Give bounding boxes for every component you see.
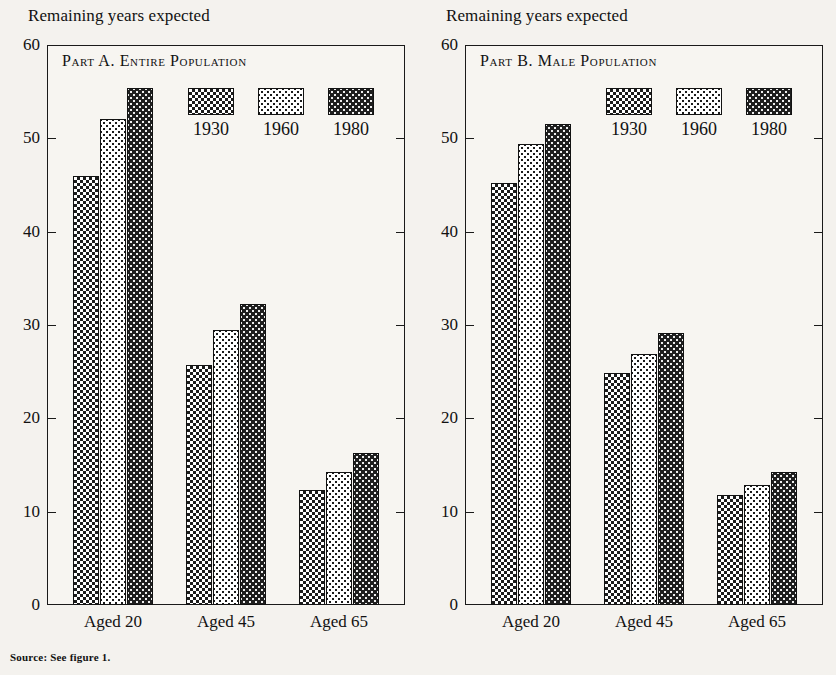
legend-swatch-b-1980 xyxy=(746,88,792,115)
bar-b-aged-20-1960 xyxy=(518,144,544,605)
y-tick-label-a-0: 0 xyxy=(4,596,40,613)
legend-label-a-1980: 1980 xyxy=(325,119,377,140)
chart-panel-part-a: Remaining years expected Part A. Entire … xyxy=(0,0,418,648)
figure-root: Remaining years expected Part A. Entire … xyxy=(0,0,836,675)
x-axis-label-b-aged-65: Aged 65 xyxy=(697,612,817,632)
y-tick-label-b-50: 50 xyxy=(422,129,458,146)
bar-a-aged-45-1960 xyxy=(213,330,239,605)
chart-panel-part-b: Remaining years expected Part B. Male Po… xyxy=(418,0,836,648)
y-tick-label-a-40: 40 xyxy=(4,223,40,240)
source-note: Source: See figure 1. xyxy=(10,651,110,663)
legend-label-b-1930: 1930 xyxy=(603,119,655,140)
y-axis-caption-b: Remaining years expected xyxy=(446,6,628,26)
legend-swatch-a-1930 xyxy=(188,88,234,115)
legend-label-a-1930: 1930 xyxy=(185,119,237,140)
legend-swatch-b-1930 xyxy=(606,88,652,115)
legend-a: 193019601980 xyxy=(185,88,395,146)
y-tick-label-a-50: 50 xyxy=(4,129,40,146)
legend-b: 193019601980 xyxy=(603,88,813,146)
legend-label-b-1960: 1960 xyxy=(673,119,725,140)
y-tick-label-b-10: 10 xyxy=(422,503,458,520)
bar-a-aged-65-1930 xyxy=(299,490,325,605)
x-axis-label-b-aged-20: Aged 20 xyxy=(471,612,591,632)
legend-label-a-1960: 1960 xyxy=(255,119,307,140)
y-axis-caption-a: Remaining years expected xyxy=(28,6,210,26)
legend-label-b-1980: 1980 xyxy=(743,119,795,140)
bar-b-aged-20-1980 xyxy=(545,124,571,605)
bar-b-aged-20-1930 xyxy=(491,183,517,605)
x-axis-label-b-aged-45: Aged 45 xyxy=(584,612,704,632)
bar-b-aged-65-1980 xyxy=(771,472,797,605)
bar-b-aged-65-1960 xyxy=(744,485,770,605)
bar-a-aged-45-1980 xyxy=(240,304,266,605)
bar-a-aged-20-1980 xyxy=(127,88,153,605)
x-axis-label-a-aged-65: Aged 65 xyxy=(279,612,399,632)
bar-b-aged-65-1930 xyxy=(717,495,743,605)
y-tick-label-b-40: 40 xyxy=(422,223,458,240)
legend-swatch-b-1960 xyxy=(676,88,722,115)
y-tick-label-a-30: 30 xyxy=(4,316,40,333)
x-axis-label-a-aged-20: Aged 20 xyxy=(53,612,173,632)
y-tick-label-b-0: 0 xyxy=(422,596,458,613)
bar-b-aged-45-1980 xyxy=(658,333,684,605)
y-tick-label-a-60: 60 xyxy=(4,36,40,53)
bar-a-aged-45-1930 xyxy=(186,365,212,605)
bar-a-aged-20-1960 xyxy=(100,119,126,605)
y-tick-label-b-60: 60 xyxy=(422,36,458,53)
bar-a-aged-65-1960 xyxy=(326,472,352,605)
y-tick-label-a-10: 10 xyxy=(4,503,40,520)
bar-b-aged-45-1930 xyxy=(604,373,630,605)
bar-a-aged-20-1930 xyxy=(73,176,99,605)
x-axis-label-a-aged-45: Aged 45 xyxy=(166,612,286,632)
legend-swatch-a-1960 xyxy=(258,88,304,115)
bar-a-aged-65-1980 xyxy=(353,453,379,605)
legend-swatch-a-1980 xyxy=(328,88,374,115)
bar-b-aged-45-1960 xyxy=(631,354,657,605)
y-tick-label-b-20: 20 xyxy=(422,409,458,426)
y-tick-label-b-30: 30 xyxy=(422,316,458,333)
y-tick-label-a-20: 20 xyxy=(4,409,40,426)
